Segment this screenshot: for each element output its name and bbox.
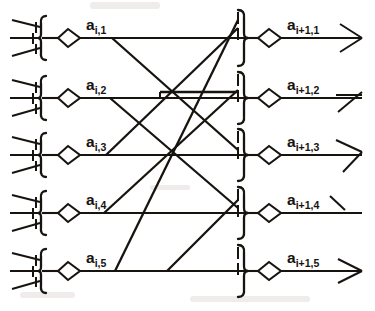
left-dendrite-tree-3 (10, 133, 46, 177)
label-left-1: ai,1 (86, 16, 106, 36)
soma-right-3 (258, 146, 281, 164)
label-right-3: ai+1,3 (287, 133, 319, 153)
neuron-row-1 (10, 10, 362, 66)
neural-network-diagram: ai,1 ai,2 ai,3 ai,4 ai,5 ai+1,1 ai+1,2 a… (0, 0, 375, 311)
soma-right-1 (258, 29, 281, 47)
diagram-canvas: ai,1 ai,2 ai,3 ai,4 ai,5 ai+1,1 ai+1,2 a… (0, 0, 375, 311)
soma-right-2 (258, 89, 281, 107)
label-left-4: ai,4 (86, 191, 106, 211)
soma-right-4 (258, 204, 281, 222)
soma-left-4 (58, 204, 80, 222)
soma-left-1 (58, 29, 80, 47)
axon-labels: ai,1 ai,2 ai,3 ai,4 ai,5 ai+1,1 ai+1,2 a… (86, 16, 319, 269)
neuron-row-2 (10, 72, 362, 124)
label-left-2: ai,2 (86, 76, 106, 96)
left-dendrite-tree-1 (10, 16, 46, 60)
label-left-5: ai,5 (86, 249, 106, 269)
soma-left-5 (58, 262, 80, 280)
soma-left-3 (58, 146, 80, 164)
left-dendrite-tree-2 (10, 76, 46, 120)
label-right-4: ai+1,4 (287, 191, 319, 211)
soma-right-5 (258, 262, 281, 280)
label-left-3: ai,3 (86, 133, 106, 153)
crossing-connections (104, 20, 238, 271)
label-right-1: ai+1,1 (287, 16, 319, 36)
label-right-2: ai+1,2 (287, 76, 319, 96)
soma-left-2 (58, 89, 80, 107)
left-dendrite-tree-4 (10, 191, 46, 235)
neuron-row-4 (10, 187, 362, 239)
label-right-5: ai+1,5 (287, 249, 319, 269)
left-dendrite-tree-5 (10, 249, 46, 293)
